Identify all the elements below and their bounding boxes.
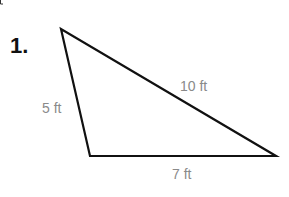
corner-mark <box>1 0 4 4</box>
triangle-shape <box>61 29 276 156</box>
side-label-left: 5 ft <box>42 100 62 116</box>
side-label-base: 7 ft <box>172 166 192 182</box>
problem-number: 1. <box>10 33 28 58</box>
worksheet-problem: 1. 5 ft 10 ft 7 ft <box>0 0 289 197</box>
side-label-hypotenuse: 10 ft <box>180 78 207 94</box>
triangle-diagram: 1. 5 ft 10 ft 7 ft <box>0 0 289 197</box>
